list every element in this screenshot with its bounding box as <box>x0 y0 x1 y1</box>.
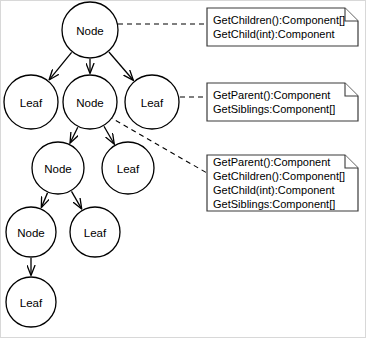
note-operation-line: GetChild(int):Component <box>213 28 335 40</box>
note-operation-line: GetChild(int):Component <box>213 184 335 196</box>
node-label: Node <box>17 227 45 239</box>
note-leaf[interactable]: GetParent():ComponentGetSiblings:Compone… <box>207 83 358 121</box>
note-operation-line: GetSiblings:Component[] <box>213 198 335 210</box>
node-label: Node <box>44 163 72 175</box>
tree-node-node-2[interactable]: Node <box>63 75 117 129</box>
notes-layer: GetChildren():Component[]GetChild(int):C… <box>207 8 358 211</box>
tree-node-node-4[interactable]: Node <box>32 142 84 194</box>
tree-edge-n-sub-to-n-leaf-d <box>72 191 82 208</box>
tree-edge-n-mid-to-n-sub <box>70 127 78 143</box>
node-label: Node <box>76 97 104 109</box>
composite-tree-diagram: NodeLeafNodeLeafNodeLeafNodeLeafLeaf Get… <box>0 0 366 339</box>
tree-node-node-0[interactable]: Node <box>62 2 118 58</box>
note-operation-line: GetParent():Component <box>213 89 330 101</box>
note-operation-line: GetSiblings:Component[] <box>213 103 335 115</box>
tree-edge-n-root-to-n-leaf-a <box>49 52 71 79</box>
tree-node-node-6[interactable]: Node <box>6 207 56 257</box>
note-operation-line: GetChildren():Component[] <box>213 170 345 182</box>
note-operation-line: GetParent():Component <box>213 156 330 168</box>
tree-edge-n-root-to-n-leaf-b <box>109 52 133 80</box>
node-label: Node <box>76 25 104 37</box>
tree-node-leaf-7[interactable]: Leaf <box>70 207 120 257</box>
note-operation-line: GetChildren():Component[] <box>213 14 345 26</box>
diagram-canvas: NodeLeafNodeLeafNodeLeafNodeLeafLeaf Get… <box>0 0 366 339</box>
tree-edge-n-sub-to-n-deep <box>41 193 47 207</box>
node-label: Leaf <box>117 163 140 175</box>
tree-node-leaf-5[interactable]: Leaf <box>102 142 154 194</box>
note-root[interactable]: GetChildren():Component[]GetChild(int):C… <box>207 8 358 46</box>
node-label: Leaf <box>20 297 43 309</box>
node-label: Leaf <box>141 97 164 109</box>
tree-node-leaf-3[interactable]: Leaf <box>125 75 179 129</box>
tree-node-leaf-8[interactable]: Leaf <box>6 277 56 327</box>
node-label: Leaf <box>84 227 107 239</box>
nodes-layer: NodeLeafNodeLeafNodeLeafNodeLeafLeaf <box>4 2 179 327</box>
tree-edge-n-mid-to-n-leaf-c <box>104 126 114 143</box>
tree-node-leaf-1[interactable]: Leaf <box>4 75 58 129</box>
note-mid[interactable]: GetParent():ComponentGetChildren():Compo… <box>207 155 358 211</box>
node-label: Leaf <box>20 97 43 109</box>
